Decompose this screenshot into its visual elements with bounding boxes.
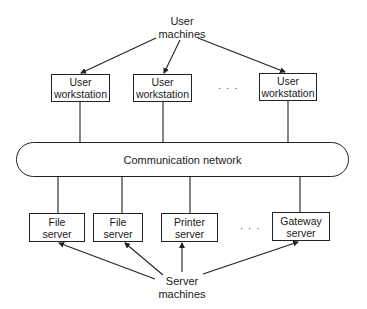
user-workstation-1: Userworkstation <box>51 74 110 102</box>
workstation-ellipsis: · · · <box>218 83 239 94</box>
printer-server: Printerserver <box>161 213 218 242</box>
gw-line1: Gateway <box>280 215 321 227</box>
fs2-line1: File <box>103 216 132 228</box>
file-server-1: Fileserver <box>29 213 85 242</box>
user-workstation-3: Userworkstation <box>259 73 317 101</box>
user-machines-label: User machines <box>148 15 216 40</box>
ws1-line2: workstation <box>54 88 107 100</box>
user-machines-line2: machines <box>148 28 216 41</box>
ws2-line2: workstation <box>136 88 189 100</box>
ws3-line2: workstation <box>261 87 314 99</box>
server-machines-line1: Server <box>148 275 216 288</box>
fs2-line2: server <box>103 228 132 240</box>
network-label: Communication network <box>124 154 242 166</box>
ws2-line1: User <box>136 76 189 88</box>
ps-line1: Printer <box>174 216 205 228</box>
fs1-line2: server <box>42 228 71 240</box>
ps-line2: server <box>174 228 205 240</box>
fs1-line1: File <box>42 216 71 228</box>
ws3-line1: User <box>261 75 314 87</box>
user-workstation-2: Userworkstation <box>133 74 192 102</box>
server-machines-line2: machines <box>148 288 216 301</box>
user-machines-line1: User <box>148 15 216 28</box>
server-machines-label: Server machines <box>148 275 216 300</box>
ws1-line1: User <box>54 76 107 88</box>
communication-network: Communication network <box>16 142 349 177</box>
gateway-server: Gatewayserver <box>272 212 330 241</box>
gw-line2: server <box>280 227 321 239</box>
file-server-2: Fileserver <box>93 213 143 242</box>
server-ellipsis: · · · <box>240 223 261 234</box>
